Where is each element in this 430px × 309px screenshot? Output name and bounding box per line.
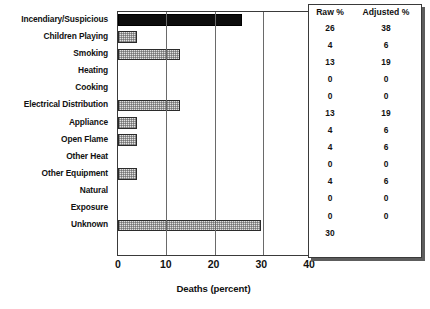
y-axis-label: Cooking — [0, 79, 112, 96]
x-axis-title: Deaths (percent) — [117, 283, 310, 294]
table-row: 30 — [309, 224, 421, 241]
table-cell-adjusted: 38 — [351, 23, 421, 33]
y-axis-label: Other Equipment — [0, 165, 112, 182]
x-axis-tick-label: 20 — [208, 258, 220, 270]
gridline-20 — [215, 12, 216, 255]
table-cell-raw: 4 — [309, 142, 351, 152]
table-row: 00 — [309, 190, 421, 207]
y-axis-label: Open Flame — [0, 131, 112, 148]
table-cell-adjusted: 0 — [351, 91, 421, 101]
bar-row — [118, 63, 309, 80]
bar-row — [118, 149, 309, 166]
table-row: 00 — [309, 207, 421, 224]
table-cell-adjusted: 6 — [351, 125, 421, 135]
table-row: 00 — [309, 70, 421, 87]
table-header-raw: Raw % — [309, 7, 351, 17]
table-row: 46 — [309, 173, 421, 190]
y-axis-label: Natural — [0, 182, 112, 199]
table-cell-raw: 26 — [309, 23, 351, 33]
chart-figure: Incendiary/SuspiciousChildren PlayingSmo… — [0, 0, 430, 309]
bar — [118, 117, 137, 129]
gridline-30 — [263, 12, 264, 255]
table-body: 26384613190000131946460046000030 — [309, 19, 421, 241]
bar-row — [118, 200, 309, 217]
y-axis-label: Appliance — [0, 114, 112, 131]
y-axis-label: Other Heat — [0, 148, 112, 165]
table-header-row: Raw % Adjusted % — [309, 5, 421, 19]
bar-rows — [118, 12, 309, 255]
table-cell-raw: 4 — [309, 40, 351, 50]
bar-row — [118, 217, 309, 234]
y-axis-label: Electrical Distribution — [0, 96, 112, 113]
table-cell-raw: 13 — [309, 57, 351, 67]
bar-row — [118, 46, 309, 63]
bar-row — [118, 166, 309, 183]
bar-row — [118, 29, 309, 46]
table-cell-raw: 0 — [309, 74, 351, 84]
table-cell-adjusted: 19 — [351, 57, 421, 67]
bar — [118, 49, 180, 61]
gridline-10 — [166, 12, 167, 255]
y-axis-category-labels: Incendiary/SuspiciousChildren PlayingSmo… — [0, 11, 112, 233]
table-cell-raw: 13 — [309, 108, 351, 118]
table-cell-adjusted: 6 — [351, 142, 421, 152]
y-axis-label: Incendiary/Suspicious — [0, 11, 112, 28]
x-axis-tick-label: 0 — [115, 258, 121, 270]
table-cell-raw: 0 — [309, 159, 351, 169]
bar — [118, 14, 242, 26]
table-row: 2638 — [309, 19, 421, 36]
bar — [118, 100, 180, 112]
y-axis-label: Heating — [0, 62, 112, 79]
y-axis-label: Unknown — [0, 216, 112, 233]
percent-table: Raw % Adjusted % 26384613190000131946460… — [308, 4, 422, 258]
bar-row — [118, 132, 309, 149]
bar — [118, 134, 137, 146]
table-cell-adjusted: 0 — [351, 74, 421, 84]
table-cell-adjusted: 0 — [351, 193, 421, 203]
table-cell-adjusted: 0 — [351, 159, 421, 169]
bar — [118, 31, 137, 43]
bar-row — [118, 80, 309, 97]
table-cell-adjusted: 6 — [351, 176, 421, 186]
table-row: 46 — [309, 139, 421, 156]
table-cell-raw: 0 — [309, 211, 351, 221]
bar-row — [118, 183, 309, 200]
table-row: 00 — [309, 156, 421, 173]
table-cell-raw: 4 — [309, 176, 351, 186]
bar — [118, 168, 137, 180]
table-cell-raw: 30 — [309, 228, 351, 238]
table-cell-raw: 4 — [309, 125, 351, 135]
table-cell-adjusted: 19 — [351, 108, 421, 118]
y-axis-label: Children Playing — [0, 28, 112, 45]
table-row: 46 — [309, 122, 421, 139]
table-cell-adjusted: 6 — [351, 40, 421, 50]
bar-row — [118, 12, 309, 29]
table-cell-raw: 0 — [309, 91, 351, 101]
x-axis-tick-label: 10 — [160, 258, 172, 270]
bar — [118, 220, 261, 232]
bar-row — [118, 115, 309, 132]
table-cell-raw: 0 — [309, 193, 351, 203]
table-row: 46 — [309, 36, 421, 53]
table-row: 00 — [309, 87, 421, 104]
x-axis-tick-label: 30 — [255, 258, 267, 270]
plot-area — [117, 11, 310, 256]
y-axis-label: Exposure — [0, 199, 112, 216]
y-axis-label: Smoking — [0, 45, 112, 62]
table-row: 1319 — [309, 104, 421, 121]
table-header-adjusted: Adjusted % — [351, 7, 421, 17]
table-row: 1319 — [309, 53, 421, 70]
bar-row — [118, 97, 309, 114]
table-cell-adjusted: 0 — [351, 211, 421, 221]
